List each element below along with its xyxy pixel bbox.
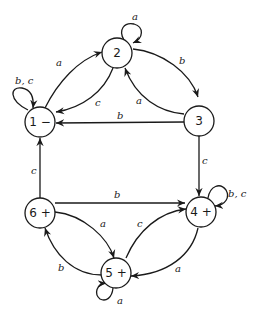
edge-5-4: [126, 209, 186, 258]
edge-1-1: [13, 88, 33, 110]
label-2-1: c: [95, 97, 101, 108]
state-1: 1 −: [25, 107, 55, 137]
state-diagram: b, c a a c b a b c c b a b c a b, c a 1 …: [0, 0, 260, 318]
state-4: 4 +: [186, 197, 216, 227]
state-5: 5 +: [101, 258, 131, 288]
label-5-5: a: [117, 295, 123, 306]
label-6-1: c: [31, 165, 37, 176]
edge-1-2: [45, 52, 102, 108]
label-6-5: a: [100, 218, 106, 229]
label-3-4: c: [202, 155, 208, 166]
edge-3-1: [56, 122, 184, 123]
state-3: 3: [184, 106, 214, 136]
edge-2-3: [133, 49, 198, 97]
edge-2-1: [56, 68, 113, 112]
label-6-4: b: [114, 189, 120, 200]
state-6-label: 6 +: [29, 206, 51, 220]
label-5-4: c: [137, 218, 143, 229]
state-2: 2: [102, 38, 132, 68]
edge-5-6: [45, 228, 102, 275]
label-4-5: a: [175, 263, 181, 274]
state-4-label: 4 +: [190, 205, 212, 219]
label-5-6: b: [58, 262, 64, 273]
label-2-3: b: [179, 55, 185, 66]
edge-4-5: [131, 228, 198, 276]
label-4-4: b, c: [228, 188, 247, 199]
label-2-2: a: [132, 11, 138, 22]
edge-3-2: [125, 68, 184, 114]
state-1-label: 1 −: [29, 115, 51, 129]
label-3-2: a: [136, 95, 142, 106]
label-3-1: b: [117, 110, 123, 121]
state-5-label: 5 +: [105, 266, 127, 280]
state-3-label: 3: [195, 114, 203, 128]
state-6: 6 +: [25, 198, 55, 228]
label-1-1: b, c: [15, 75, 34, 86]
label-1-2: a: [56, 57, 62, 68]
state-2-label: 2: [113, 46, 121, 60]
